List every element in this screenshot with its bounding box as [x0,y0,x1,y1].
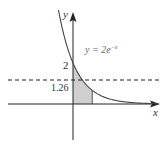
x-axis-label: x [153,107,158,118]
function-label: y = 2e−x [85,44,117,55]
y-axis-label: y [63,9,68,20]
function-label-text: y = 2e [85,44,111,55]
function-exponent: −x [111,44,118,50]
dashed-line-label: 1.26 [51,83,69,93]
y-intercept-label: 2 [63,60,69,71]
function-graph [0,0,165,145]
